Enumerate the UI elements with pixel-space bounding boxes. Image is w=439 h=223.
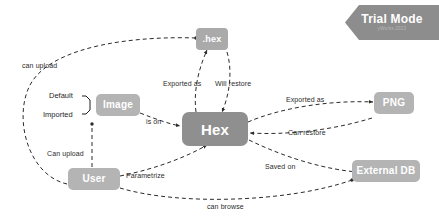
node-user-label: User — [82, 174, 105, 184]
node-hex-label: Hex — [201, 122, 229, 137]
edge-label-can-restore: Can restore — [288, 129, 326, 136]
edge-user-db — [120, 180, 352, 199]
label-default: Default — [49, 91, 73, 100]
edge-label-can-upload-top: can upload — [22, 62, 57, 69]
trial-mode-subtitle: yWorks 2023 — [378, 27, 406, 32]
node-png-label: PNG — [383, 98, 405, 108]
node-external-db-label: External DB — [357, 166, 416, 176]
node-image-label: Image — [103, 100, 133, 110]
edge-label-exported-as-png: Exported as — [286, 96, 324, 103]
node-hex[interactable]: Hex — [182, 112, 248, 146]
edge-label-can-upload-image: Can upload — [47, 150, 84, 157]
node-external-db[interactable]: External DB — [352, 160, 420, 182]
node-user[interactable]: User — [68, 168, 120, 190]
image-variant-bracket — [82, 96, 90, 114]
trial-mode-title: Trial Mode — [361, 13, 422, 25]
edge-label-will-restore: Will restore — [215, 80, 251, 87]
edge-label-saved-on: Saved on — [265, 163, 295, 170]
edge-label-can-browse: can browse — [207, 203, 244, 210]
edge-hex-png — [248, 102, 373, 122]
edge-label-is-on: is on — [146, 118, 161, 125]
edge-label-exported-as-hexfile: Exported as — [163, 80, 201, 87]
edge-label-parametrize: Parametrize — [126, 172, 165, 179]
node-hexfile-label: .hex — [203, 35, 222, 44]
label-imported: Imported — [43, 110, 73, 119]
node-png[interactable]: PNG — [374, 92, 414, 114]
trial-mode-badge: Trial Mode yWorks 2023 — [345, 5, 439, 40]
node-hexfile[interactable]: .hex — [196, 28, 228, 50]
node-image[interactable]: Image — [96, 94, 140, 116]
